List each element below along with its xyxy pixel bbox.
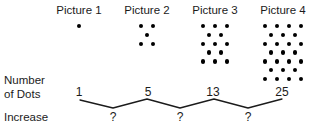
dot [201,24,205,28]
dot [293,68,297,72]
dot [145,33,149,37]
dot [225,42,229,46]
dot [281,33,285,37]
dot [293,33,297,37]
dot-pattern-sequence-diagram: Picture 1 Picture 2 Picture 3 Picture 4 … [0,0,318,131]
dot [201,42,205,46]
dot [287,59,291,63]
picture-2-dots [118,24,176,80]
dot [213,24,217,28]
dot [275,24,279,28]
dot [275,77,279,81]
dot [299,24,303,28]
dot [287,42,291,46]
dot [213,59,217,63]
dot [287,24,291,28]
dot [275,59,279,63]
dot [299,42,303,46]
increase-value-3: ? [233,110,263,124]
dot-count-picture-1: 1 [64,85,94,99]
dot [151,24,155,28]
dot [299,77,303,81]
picture-1-header: Picture 1 [50,4,108,17]
dot [151,42,155,46]
dot [207,50,211,54]
dot [275,42,279,46]
dot [139,24,143,28]
dot [213,42,217,46]
dot-count-picture-2: 5 [133,85,163,99]
dot [287,77,291,81]
dot [207,33,211,37]
picture-2-header: Picture 2 [118,4,176,17]
dot [219,50,223,54]
dot [281,68,285,72]
bracket-polyline [80,99,282,108]
dot [269,50,273,54]
dot [263,24,267,28]
dot [225,24,229,28]
increase-value-2: ? [165,110,195,124]
picture-1-dots [50,24,108,80]
dot [225,59,229,63]
dot [269,68,273,72]
dot-count-picture-3: 13 [198,85,228,99]
dot [219,33,223,37]
number-of-dots-label-line1: Number [4,73,45,87]
picture-4-header: Picture 4 [254,4,312,17]
dot [293,50,297,54]
dot [269,33,273,37]
dot [201,59,205,63]
increase-value-1: ? [98,110,128,124]
dot [281,50,285,54]
dot-count-picture-4: 25 [267,85,297,99]
dot [77,24,81,28]
picture-3-dots [186,24,244,80]
dot [139,42,143,46]
picture-4-dots [254,24,312,80]
dot [299,59,303,63]
dot [263,77,267,81]
dot [263,59,267,63]
picture-3-header: Picture 3 [186,4,244,17]
number-of-dots-label-line2: of Dots [4,87,40,101]
increase-label: Increase [4,110,48,124]
dot [263,42,267,46]
